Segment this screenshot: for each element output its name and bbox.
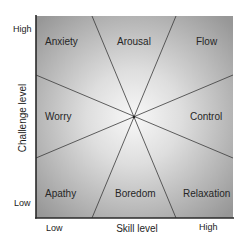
x-tick-low: Low (46, 223, 63, 233)
y-tick-high: High (13, 24, 32, 34)
region-apathy: Apathy (45, 188, 76, 199)
region-flow: Flow (196, 36, 218, 47)
flow-diagram: Anxiety Arousal Flow Worry Control Apath… (0, 0, 245, 243)
region-worry: Worry (45, 111, 71, 122)
x-axis-label: Skill level (116, 223, 158, 234)
region-control: Control (190, 111, 222, 122)
center-point (133, 116, 136, 119)
y-tick-low: Low (14, 198, 31, 208)
region-arousal: Arousal (117, 36, 151, 47)
region-relaxation: Relaxation (183, 188, 230, 199)
region-boredom: Boredom (115, 188, 156, 199)
x-tick-high: High (199, 222, 218, 232)
y-axis-label: Challenge level (17, 84, 28, 152)
region-anxiety: Anxiety (45, 36, 78, 47)
